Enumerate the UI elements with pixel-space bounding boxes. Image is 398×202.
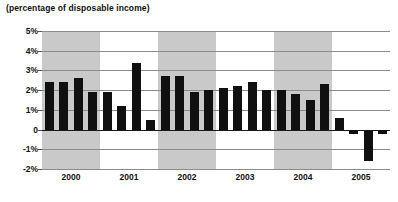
savings-rate-chart: (percentage of disposable income) 5%4%3%… xyxy=(0,0,398,202)
bar xyxy=(175,76,184,129)
x-tick-label-2005: 2005 xyxy=(352,172,371,182)
y-tick-label: 3% xyxy=(4,65,38,75)
x-tick-label-2000: 2000 xyxy=(62,172,81,182)
y-tick-label: 0 xyxy=(4,125,38,135)
gridline-4 xyxy=(42,51,390,52)
y-tick-label: -1% xyxy=(4,144,38,154)
gridline-3 xyxy=(42,70,390,71)
gridline-2 xyxy=(42,90,390,91)
bar xyxy=(45,82,54,129)
bar xyxy=(204,90,213,129)
y-axis: 5%4%3%2%1%0-1%-2% xyxy=(0,31,38,169)
gridline-5 xyxy=(42,31,390,32)
gridline-0 xyxy=(42,130,390,131)
bar xyxy=(190,92,199,129)
bar xyxy=(233,86,242,129)
x-axis: 200020012002200320042005 xyxy=(42,172,390,192)
y-tick-label: -2% xyxy=(4,164,38,174)
bar xyxy=(219,88,228,129)
y-tick-label: 4% xyxy=(4,46,38,56)
gridline--1 xyxy=(42,149,390,150)
bar xyxy=(74,78,83,129)
bar xyxy=(146,120,155,130)
bar xyxy=(88,92,97,129)
x-tick-label-2003: 2003 xyxy=(236,172,255,182)
bar xyxy=(103,92,112,129)
x-tick-label-2001: 2001 xyxy=(120,172,139,182)
axis-baseline-rule xyxy=(42,169,390,170)
bar xyxy=(117,106,126,130)
bar xyxy=(378,130,387,134)
bar xyxy=(291,94,300,129)
bar xyxy=(248,82,257,129)
bar xyxy=(349,130,358,134)
y-tick-labels: 5%4%3%2%1%0-1%-2% xyxy=(0,31,38,169)
bar xyxy=(335,118,344,130)
bar xyxy=(277,90,286,129)
bar xyxy=(132,63,141,130)
bar xyxy=(161,76,170,129)
chart-subtitle: (percentage of disposable income) xyxy=(6,3,150,13)
y-tick-label: 2% xyxy=(4,85,38,95)
bar xyxy=(306,100,315,130)
bar xyxy=(262,90,271,129)
x-tick-label-2004: 2004 xyxy=(294,172,313,182)
x-tick-label-2002: 2002 xyxy=(178,172,197,182)
y-tick-label: 1% xyxy=(4,105,38,115)
bar xyxy=(59,82,68,129)
plot-area xyxy=(42,31,390,169)
bar xyxy=(320,84,329,129)
bar xyxy=(364,130,373,162)
y-tick-label: 5% xyxy=(4,26,38,36)
